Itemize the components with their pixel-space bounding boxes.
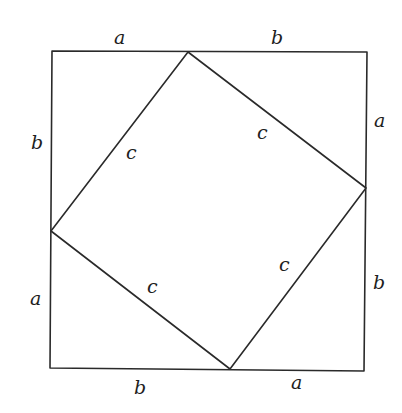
label-top-left-a: a <box>114 26 125 48</box>
outer-square <box>50 51 367 371</box>
label-inner-bottom-right-c: c <box>279 253 290 275</box>
label-left-top-b: b <box>31 131 43 153</box>
label-inner-top-right-c: c <box>257 121 268 143</box>
label-left-bottom-a: a <box>30 287 41 309</box>
label-bottom-right-a: a <box>291 371 302 393</box>
label-right-bottom-b: b <box>373 271 385 293</box>
label-right-top-a: a <box>374 109 385 131</box>
label-inner-bottom-left-c: c <box>147 275 158 297</box>
inner-square <box>51 52 366 369</box>
label-top-right-b: b <box>271 26 283 48</box>
pythagorean-proof-diagram: a b a b b a b a c c c c <box>0 0 402 413</box>
label-bottom-left-b: b <box>134 376 146 398</box>
label-inner-top-left-c: c <box>126 141 137 163</box>
